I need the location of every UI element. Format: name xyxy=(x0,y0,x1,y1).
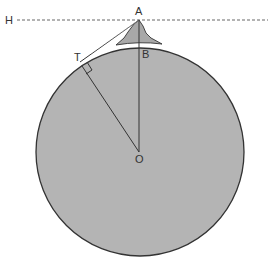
horizon-diagram: H A B T O xyxy=(0,0,270,266)
label-O: O xyxy=(135,153,144,165)
label-H: H xyxy=(5,14,13,26)
label-T: T xyxy=(74,51,81,63)
label-B: B xyxy=(142,48,149,60)
diagram-canvas: H A B T O xyxy=(0,0,270,266)
earth-circle xyxy=(36,48,244,256)
label-A: A xyxy=(135,5,143,17)
